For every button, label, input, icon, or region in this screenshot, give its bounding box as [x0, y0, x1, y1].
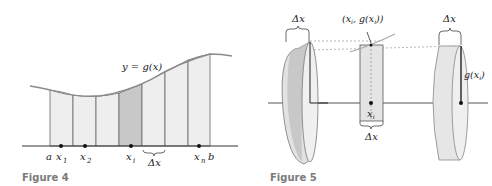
label-xn: x: [194, 151, 200, 162]
label-b: b: [208, 151, 214, 162]
curve-label: y = g(x): [121, 61, 162, 72]
label-x1-sub: 1: [63, 157, 67, 165]
riemann-sum-diagram: y = g(x) a x 1 x 2 x i Δx x n b: [0, 0, 250, 186]
label-xi-sub: i: [133, 157, 135, 165]
highlighted-strip: [119, 84, 142, 146]
delta-brace: [143, 150, 165, 156]
right-delta-label: Δx: [442, 13, 456, 24]
left-delta-label: Δx: [291, 13, 305, 24]
label-delta-x: Δx: [147, 157, 161, 168]
center-delta-label: Δx: [364, 131, 378, 142]
left-frustum: [282, 42, 328, 164]
radius-label: g(xi): [464, 69, 485, 81]
point-label: (xi, g(xi)): [342, 13, 384, 25]
label-a: a: [46, 151, 52, 162]
figure-4: y = g(x) a x 1 x 2 x i Δx x n b Figure 4: [0, 0, 250, 186]
figure-5: Δx (xi, g(xi)) xi Δx Δx g(xi) Figure 5: [250, 0, 492, 186]
right-disk: [433, 46, 468, 160]
disk-method-diagram: Δx (xi, g(xi)) xi Δx Δx g(xi): [250, 0, 492, 186]
figure-5-caption: Figure 5: [270, 172, 317, 183]
label-x1: x: [56, 151, 62, 162]
label-xn-sub: n: [201, 157, 206, 165]
label-x2: x: [80, 151, 86, 162]
label-x2-sub: 2: [86, 157, 92, 165]
figure-4-caption: Figure 4: [22, 172, 69, 183]
label-xi: x: [126, 151, 132, 162]
